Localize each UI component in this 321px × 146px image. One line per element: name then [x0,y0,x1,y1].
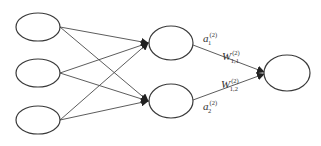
neural-network-diagram: a(2)1 W(2)1,1 W(2)1,2 a(2)2 [0,0,321,146]
label-a1: a(2)1 [203,31,217,46]
input-node-2 [16,59,60,87]
output-node [264,55,310,91]
edge-in3-h1 [60,43,148,120]
edge-in3-h2 [60,101,148,120]
label-w12: W(2)1,2 [221,77,239,92]
input-node-1 [16,13,60,41]
hidden-node-1 [149,26,193,60]
edge-in2-h2 [60,73,148,101]
edge-in1-h2 [60,27,148,101]
label-w11: W(2)1,1 [222,49,240,64]
hidden-node-2 [149,84,193,118]
input-node-3 [16,106,60,134]
label-a2: a(2)2 [203,99,217,114]
edge-in1-h1 [60,27,148,43]
edge-in2-h1 [60,43,148,73]
